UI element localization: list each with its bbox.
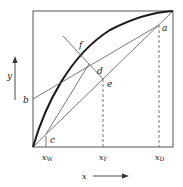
point-label-c: c [50,135,55,145]
point-label-e: e [107,79,112,89]
y-axis-label: y [6,71,13,81]
rectifying-line [33,25,159,99]
xw-label: xW [42,153,54,162]
xd-label: xD [155,153,165,162]
x-axis-label: x [82,172,87,181]
y-axis-arrowhead-icon [13,56,18,63]
point-label-b: b [23,95,29,105]
point-label-d: d [97,66,103,76]
point-label-f: f [78,40,84,50]
point-label-a: a [162,23,167,33]
xf-label: xF [99,153,108,162]
mccabe-thiele-diagram: a b c d e f xW xF xD y x [0,0,183,187]
x-axis-arrowhead-icon [122,174,129,179]
